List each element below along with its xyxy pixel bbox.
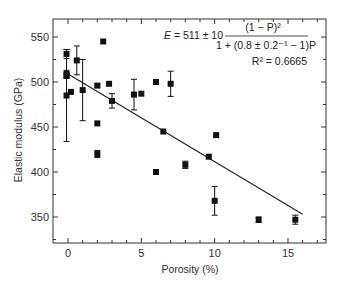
data-point — [138, 91, 144, 97]
data-point — [292, 215, 298, 224]
r-squared-label: R² = 0.6665 — [252, 55, 307, 67]
x-axis-label: Porosity (%) — [161, 263, 218, 275]
svg-text:500: 500 — [31, 76, 49, 88]
axis-ticks — [53, 19, 326, 243]
data-point — [256, 217, 262, 223]
data-point — [182, 161, 188, 168]
fit-equation: E = 511 ± 10 (1 − P)² 1 + (0.8 ± 0.2⁻¹ −… — [164, 21, 316, 67]
data-point — [213, 132, 219, 138]
data-point — [74, 46, 80, 75]
data-point — [206, 154, 212, 160]
svg-text:0: 0 — [65, 247, 71, 259]
svg-text:E = 511 ± 10: E = 511 ± 10 — [164, 29, 223, 41]
data-point — [64, 50, 70, 142]
y-axis-label: Elastic modulus (GPa) — [12, 78, 24, 182]
data-point — [80, 60, 86, 121]
data-point — [94, 83, 100, 89]
svg-text:550: 550 — [31, 31, 49, 43]
data-point — [131, 79, 137, 110]
data-point — [100, 39, 106, 45]
equation-denominator: 1 + (0.8 ± 0.2⁻¹ − 1)P — [216, 39, 316, 51]
equation-numerator: (1 − P)² — [245, 21, 281, 33]
svg-text:450: 450 — [31, 121, 49, 133]
svg-text:5: 5 — [138, 247, 144, 259]
scatter-chart: 051015350400450500550 Porosity (%) Elast… — [0, 0, 343, 286]
data-point — [153, 79, 159, 85]
svg-text:350: 350 — [31, 211, 49, 223]
data-point — [160, 129, 166, 135]
svg-text:400: 400 — [31, 166, 49, 178]
data-point — [94, 150, 100, 157]
data-point — [106, 81, 112, 87]
plot-frame — [53, 19, 326, 243]
svg-text:15: 15 — [282, 247, 294, 259]
data-point — [109, 94, 115, 108]
fit-line — [68, 74, 303, 214]
data-point — [94, 120, 100, 126]
data-point — [168, 71, 174, 96]
data-point — [153, 169, 159, 175]
data-point — [68, 89, 74, 95]
svg-text:10: 10 — [209, 247, 221, 259]
data-point — [212, 186, 218, 215]
